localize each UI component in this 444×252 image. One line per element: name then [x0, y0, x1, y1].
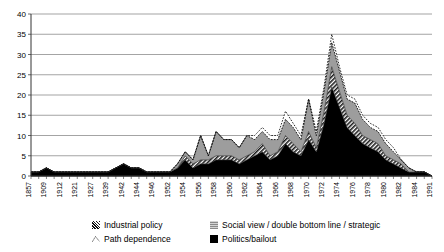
x-tick-label: 1982 — [395, 182, 402, 198]
x-tick-label: 1958 — [210, 182, 217, 198]
svg-text:20: 20 — [17, 91, 26, 100]
legend-label-industrial-policy: Industrial policy — [104, 220, 163, 230]
svg-text:35: 35 — [17, 30, 26, 39]
x-tick-label: 1970 — [303, 182, 310, 198]
x-tick-label: 1964 — [256, 182, 263, 198]
chart-canvas: 0510152025303540185719091912192119271939… — [0, 0, 444, 200]
x-tick-label: 1991 — [426, 182, 433, 198]
x-tick-label: 1968 — [287, 182, 294, 198]
x-tick-label: 1976 — [349, 182, 356, 198]
x-tick-label: 1942 — [118, 182, 125, 198]
x-tick-label: 1984 — [411, 182, 418, 198]
svg-text:10: 10 — [17, 132, 26, 141]
legend-item-social-view: Social view / double bottom line / strat… — [210, 220, 380, 230]
legend-label-politics-bailout: Politics/bailout — [222, 234, 276, 244]
svg-text:40: 40 — [17, 10, 26, 19]
legend-item-politics-bailout: Politics/bailout — [210, 234, 276, 244]
legend-row-2: Path dependence Politics/bailout — [92, 232, 432, 246]
svg-text:25: 25 — [17, 71, 26, 80]
x-tick-label: 1952 — [164, 182, 171, 198]
x-tick-label: 1962 — [241, 182, 248, 198]
x-tick-label: 1927 — [87, 182, 94, 198]
x-tick-label: 1939 — [102, 182, 109, 198]
x-tick-label: 1921 — [71, 182, 78, 198]
dotted-swatch-icon — [92, 235, 100, 243]
stacked-area-chart: 0510152025303540185719091912192119271939… — [0, 0, 444, 252]
legend-label-social-view: Social view / double bottom line / strat… — [222, 220, 380, 230]
svg-text:0: 0 — [22, 172, 27, 181]
x-tick-label: 1944 — [133, 182, 140, 198]
x-tick-label: 1980 — [380, 182, 387, 198]
svg-text:30: 30 — [17, 51, 26, 60]
x-tick-label: 1954 — [179, 182, 186, 198]
chart-legend: Industrial policy Social view / double b… — [92, 218, 432, 252]
series-areas — [31, 34, 432, 176]
gray-swatch-icon — [210, 221, 218, 229]
hatch-swatch-icon — [92, 221, 100, 229]
x-axis-labels: 1857190919121921192719391942194419461952… — [25, 176, 433, 198]
svg-text:5: 5 — [22, 152, 27, 161]
x-tick-label: 1912 — [56, 182, 63, 198]
legend-item-industrial-policy: Industrial policy — [92, 220, 200, 230]
legend-row-1: Industrial policy Social view / double b… — [92, 218, 432, 232]
x-tick-label: 1966 — [272, 182, 279, 198]
plot-area: 0510152025303540185719091912192119271939… — [0, 0, 444, 200]
black-swatch-icon — [210, 235, 218, 243]
x-tick-label: 1974 — [333, 182, 340, 198]
x-tick-label: 1960 — [226, 182, 233, 198]
x-tick-label: 1978 — [364, 182, 371, 198]
x-tick-label: 1946 — [148, 182, 155, 198]
legend-label-path-dependence: Path dependence — [104, 234, 171, 244]
x-tick-label: 1909 — [40, 182, 47, 198]
x-tick-label: 1857 — [25, 182, 32, 198]
svg-text:15: 15 — [17, 111, 26, 120]
x-tick-label: 1956 — [195, 182, 202, 198]
legend-item-path-dependence: Path dependence — [92, 234, 200, 244]
x-tick-label: 1972 — [318, 182, 325, 198]
